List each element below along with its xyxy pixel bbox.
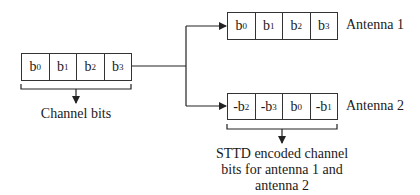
bit-cell: b2 [283, 13, 311, 39]
channel-bits-caption: Channel bits [16, 106, 136, 122]
bit-cell: -b2 [228, 94, 256, 119]
bit-cell: b0 [22, 54, 50, 80]
antenna1-label: Antenna 1 [346, 17, 404, 33]
sttd-caption-line3: antenna 2 [212, 178, 352, 194]
bit-cell: b1 [256, 13, 284, 39]
sttd-caption-line2: bits for antenna 1 and [212, 162, 352, 178]
sttd-caption-line1: STTD encoded channel [212, 146, 352, 162]
bit-cell: b3 [311, 13, 338, 39]
channel-bits-box: b0 b1 b2 b3 [21, 53, 132, 81]
bit-cell: -b1 [311, 94, 338, 119]
bit-cell: b2 [77, 54, 105, 80]
bit-cell: b0 [283, 94, 311, 119]
antenna2-label: Antenna 2 [346, 98, 404, 114]
bit-cell: b1 [50, 54, 78, 80]
sttd-caption: STTD encoded channel bits for antenna 1 … [212, 146, 352, 194]
antenna2-bits-box: -b2 -b3 b0 -b1 [227, 93, 338, 120]
bit-cell: -b3 [256, 94, 284, 119]
bit-cell: b3 [105, 54, 132, 80]
bit-cell: b0 [228, 13, 256, 39]
antenna1-bits-box: b0 b1 b2 b3 [227, 12, 338, 40]
